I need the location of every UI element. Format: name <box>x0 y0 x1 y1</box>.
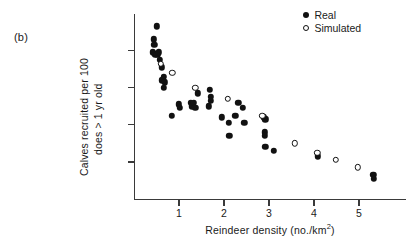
legend-label: Simulated <box>314 22 361 35</box>
data-point-real <box>240 105 246 111</box>
x-tick-label-4: 4 <box>311 207 317 219</box>
data-point-real <box>205 103 211 109</box>
data-point-sim <box>224 96 230 102</box>
data-point-real <box>206 86 212 92</box>
data-point-real <box>156 49 162 55</box>
x-axis-title: Reindeer density (no./km2) <box>134 222 406 236</box>
x-tick-1 <box>178 199 179 206</box>
data-point-real <box>371 175 377 181</box>
x-axis-line <box>134 199 406 200</box>
data-point-real <box>226 133 232 139</box>
data-point-real <box>261 133 267 139</box>
data-point-real <box>232 112 238 118</box>
legend-item-simulated: Simulated <box>303 22 361 35</box>
legend-label: Real <box>314 9 336 22</box>
x-tick-label-5: 5 <box>356 207 362 219</box>
data-point-real <box>241 120 247 126</box>
data-point-real <box>153 23 159 29</box>
x-axis-title-text: Reindeer density (no./km <box>205 224 327 236</box>
x-tick-label-3: 3 <box>266 207 272 219</box>
data-point-real <box>270 148 276 154</box>
data-point-real <box>177 105 183 111</box>
filled-circle-icon <box>303 12 309 18</box>
data-point-real <box>262 144 268 150</box>
legend: RealSimulated <box>303 9 361 34</box>
panel-label: (b) <box>14 31 28 43</box>
data-point-sim <box>332 157 338 163</box>
open-circle-icon <box>303 25 309 31</box>
data-point-real <box>160 84 166 90</box>
x-tick-3 <box>268 199 269 206</box>
data-point-sim <box>169 70 175 76</box>
data-point-real <box>151 42 157 48</box>
x-tick-label-1: 1 <box>176 207 182 219</box>
figure-panel-b: (b) 12345 Reindeer density (no./km2) Cal… <box>0 0 420 241</box>
y-tick-20 <box>128 161 135 162</box>
y-axis-title-line-2: does > 1 yr old <box>92 84 104 155</box>
legend-item-real: Real <box>303 9 361 22</box>
data-point-real <box>192 105 198 111</box>
data-point-real <box>169 112 175 118</box>
x-tick-5 <box>358 199 359 206</box>
x-tick-label-2: 2 <box>221 207 227 219</box>
x-tick-4 <box>313 199 314 206</box>
data-point-sim <box>355 164 361 170</box>
y-axis-line <box>134 14 135 200</box>
x-axis-title-close: ) <box>331 224 335 236</box>
x-tick-2 <box>223 199 224 206</box>
data-point-sim <box>292 140 298 146</box>
y-axis-title-line-1: Calves recruited per 100 <box>78 58 90 176</box>
data-point-real <box>195 90 201 96</box>
data-point-real <box>219 114 225 120</box>
y-tick-80 <box>128 50 135 51</box>
data-point-real <box>225 120 231 126</box>
y-tick-60 <box>128 87 135 88</box>
y-tick-40 <box>128 124 135 125</box>
